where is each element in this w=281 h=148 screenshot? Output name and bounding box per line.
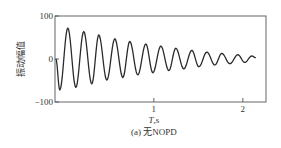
y-tick-label: 0 (49, 54, 54, 64)
y-axis-label: 振动幅值 (15, 41, 26, 77)
chart: 121000−100 振动幅值 T,s (a) 无NOPD (0, 0, 281, 148)
figure-caption: (a) 无NOPD (131, 127, 177, 137)
series-line (56, 28, 256, 90)
x-axis-label: T,s (148, 115, 159, 125)
y-tick-label: 100 (40, 11, 54, 21)
axis-tick-labels: 121000−100 (34, 11, 245, 114)
x-tick-label: 2 (241, 104, 246, 114)
y-tick-label: −100 (34, 97, 53, 107)
x-tick-label: 1 (152, 104, 157, 114)
